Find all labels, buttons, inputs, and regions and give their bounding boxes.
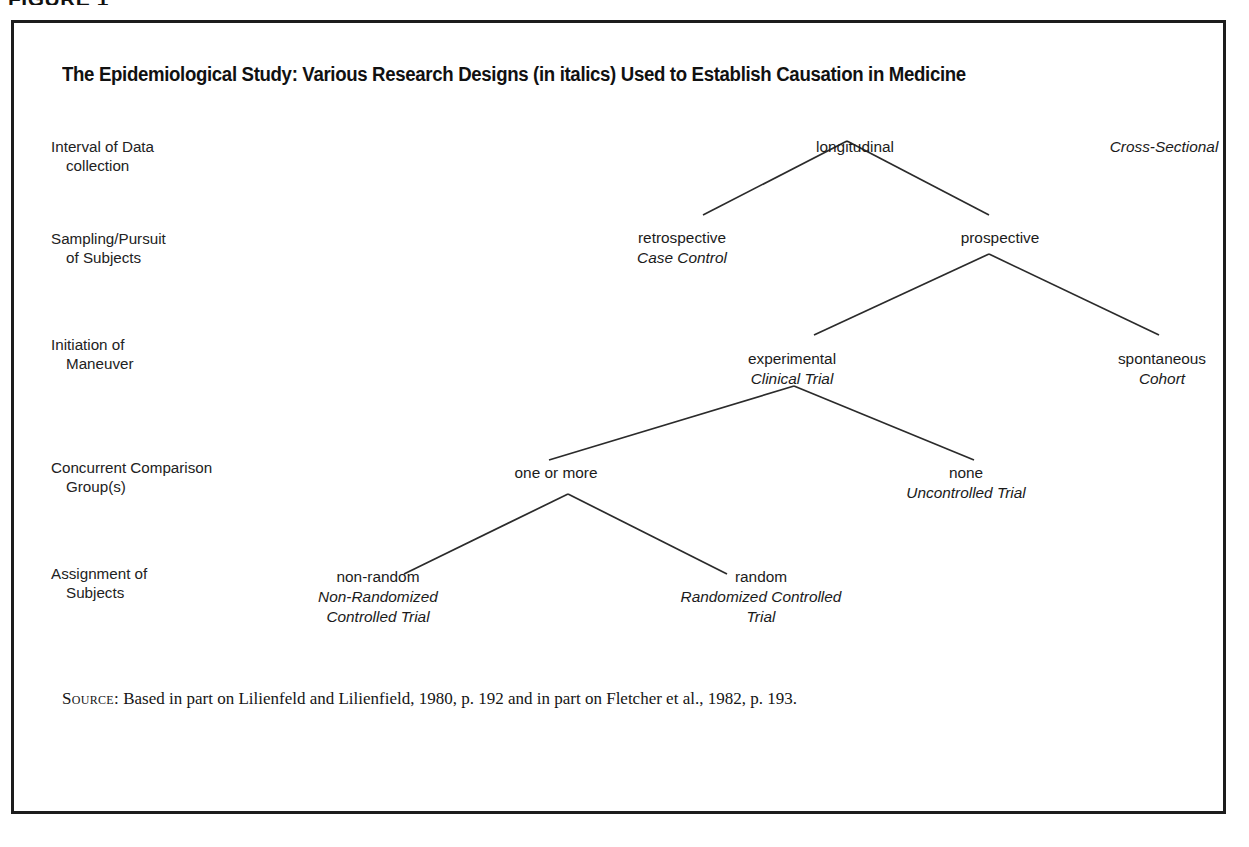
node-spontaneous: spontaneous Cohort xyxy=(1118,349,1206,389)
node-retrospective: retrospective Case Control xyxy=(637,228,727,268)
connector-prospective-spontaneous xyxy=(989,254,1159,335)
node-none-uncontrolled-trial: none Uncontrolled Trial xyxy=(906,463,1025,503)
row-label-sampling-pursuit-of-subjects: Sampling/Pursuit of Subjects xyxy=(51,229,166,267)
node-design-line-1: Non-Randomized xyxy=(318,587,438,607)
row-label-assignment-of-subjects: Assignment of Subjects xyxy=(51,564,147,602)
node-non-random: non-random Non-Randomized Controlled Tri… xyxy=(318,567,438,627)
node-cross-sectional: Cross-Sectional xyxy=(1110,137,1219,157)
source-text: Based in part on Lilienfeld and Lilienfi… xyxy=(119,689,797,708)
node-random: random Randomized Controlled Trial xyxy=(681,567,842,627)
row-label-line-1: Sampling/Pursuit xyxy=(51,230,166,247)
row-label-line-2: Maneuver xyxy=(51,354,134,373)
row-label-line-1: Assignment of xyxy=(51,565,147,582)
connector-experimental-none xyxy=(794,386,974,460)
node-term: random xyxy=(681,567,842,587)
row-label-line-2: Subjects xyxy=(51,583,147,602)
node-design: Uncontrolled Trial xyxy=(906,483,1025,503)
row-label-line-1: Interval of Data xyxy=(51,138,154,155)
node-term: none xyxy=(906,463,1025,483)
figure-border-box: The Epidemiological Study: Various Resea… xyxy=(11,20,1226,814)
connector-one-or-more-random xyxy=(568,494,727,574)
node-term: non-random xyxy=(318,567,438,587)
source-label: Source: xyxy=(62,689,119,708)
connector-one-or-more-non-random xyxy=(404,494,568,574)
node-prospective: prospective xyxy=(961,228,1040,248)
node-one-or-more: one or more xyxy=(515,463,598,483)
row-label-concurrent-comparison-groups: Concurrent Comparison Group(s) xyxy=(51,458,212,496)
node-design: Cross-Sectional xyxy=(1110,137,1219,157)
node-design-line-2: Controlled Trial xyxy=(318,607,438,627)
node-term: experimental xyxy=(748,349,836,369)
node-longitudinal: longitudinal xyxy=(816,137,894,157)
node-term: spontaneous xyxy=(1118,349,1206,369)
node-term: retrospective xyxy=(637,228,727,248)
node-experimental: experimental Clinical Trial xyxy=(748,349,836,389)
row-label-line-2: collection xyxy=(51,156,154,175)
node-design: Clinical Trial xyxy=(748,369,836,389)
node-design-line-1: Randomized Controlled xyxy=(681,587,842,607)
node-design: Cohort xyxy=(1118,369,1206,389)
source-note: Source: Based in part on Lilienfeld and … xyxy=(62,689,797,709)
figure-running-head: FIGURE 1 xyxy=(8,0,109,5)
connector-prospective-experimental xyxy=(814,254,989,335)
node-term: longitudinal xyxy=(816,137,894,157)
row-label-initiation-of-maneuver: Initiation of Maneuver xyxy=(51,335,134,373)
node-term: one or more xyxy=(515,463,598,483)
figure-title: The Epidemiological Study: Various Resea… xyxy=(62,63,966,86)
figure-page: FIGURE 1 The Epidemiological Study: Vari… xyxy=(0,0,1249,847)
node-term: prospective xyxy=(961,228,1040,248)
row-label-line-2: of Subjects xyxy=(51,248,166,267)
row-label-line-2: Group(s) xyxy=(51,477,212,496)
row-label-line-1: Initiation of xyxy=(51,336,124,353)
connector-experimental-one-or-more xyxy=(549,386,794,460)
node-design: Case Control xyxy=(637,248,727,268)
row-label-line-1: Concurrent Comparison xyxy=(51,459,212,476)
row-label-interval-of-data-collection: Interval of Data collection xyxy=(51,137,154,175)
node-design-line-2: Trial xyxy=(681,607,842,627)
